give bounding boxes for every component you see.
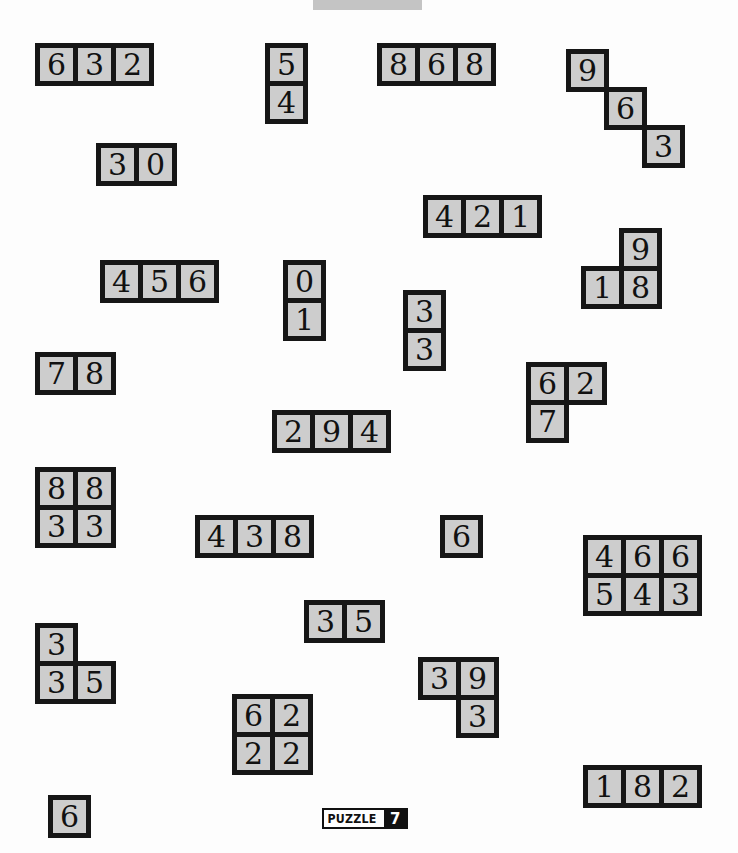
- piece-cell: 8: [271, 515, 314, 558]
- puzzle-label: PUZZLE 7: [322, 808, 408, 829]
- piece-cell: 3: [403, 290, 446, 333]
- piece-cell: 3: [304, 600, 347, 643]
- cell-digit: 6: [244, 701, 263, 731]
- cell-digit: 9: [468, 664, 487, 694]
- piece-cell: 4: [348, 410, 391, 453]
- piece-cell: 1: [499, 195, 542, 238]
- piece-cell: 7: [526, 400, 569, 443]
- cell-digit: 2: [473, 202, 492, 232]
- cell-digit: 6: [60, 802, 79, 832]
- cell-digit: 8: [633, 772, 652, 802]
- cell-digit: 6: [671, 542, 690, 572]
- piece-cell: 3: [659, 573, 702, 616]
- piece-cell: 3: [73, 505, 116, 548]
- cell-digit: 9: [578, 56, 597, 86]
- cell-digit: 5: [85, 668, 104, 698]
- piece-cell: 3: [35, 623, 78, 666]
- piece-cell: 6: [48, 795, 91, 838]
- cell-digit: 5: [150, 267, 169, 297]
- cell-digit: 3: [245, 522, 264, 552]
- piece-cell: 7: [35, 352, 78, 395]
- cell-digit: 8: [389, 50, 408, 80]
- piece-cell: 2: [659, 765, 702, 808]
- cell-digit: 3: [654, 132, 673, 162]
- piece-cell: 4: [265, 81, 308, 124]
- cell-digit: 1: [295, 305, 314, 335]
- piece-cell: 9: [456, 657, 499, 700]
- piece-cell: 5: [342, 600, 385, 643]
- cell-digit: 4: [207, 522, 226, 552]
- cell-digit: 9: [322, 417, 341, 447]
- cell-digit: 0: [295, 267, 314, 297]
- cell-digit: 4: [595, 542, 614, 572]
- piece-cell: 3: [73, 43, 116, 86]
- piece-cell: 8: [621, 765, 664, 808]
- puzzle-label-text: PUZZLE: [324, 810, 375, 827]
- piece-cell: 3: [233, 515, 276, 558]
- cell-digit: 3: [47, 668, 66, 698]
- piece-cell: 2: [270, 694, 313, 737]
- cell-digit: 8: [631, 273, 650, 303]
- cell-digit: 7: [47, 359, 66, 389]
- piece-cell: 4: [621, 573, 664, 616]
- cell-digit: 8: [85, 474, 104, 504]
- piece-cell: 1: [283, 298, 326, 341]
- piece-cell: 8: [453, 43, 496, 86]
- cell-digit: 2: [244, 739, 263, 769]
- piece-cell: 2: [564, 362, 607, 405]
- cell-digit: 2: [284, 417, 303, 447]
- cell-digit: 6: [47, 50, 66, 80]
- piece-cell: 6: [35, 43, 78, 86]
- piece-cell: 2: [270, 732, 313, 775]
- piece-cell: 5: [583, 573, 626, 616]
- cell-digit: 8: [283, 522, 302, 552]
- cell-digit: 6: [188, 267, 207, 297]
- piece-cell: 8: [377, 43, 420, 86]
- piece-cell: 6: [176, 260, 219, 303]
- cell-digit: 6: [452, 522, 471, 552]
- cell-digit: 2: [123, 50, 142, 80]
- cell-digit: 8: [47, 474, 66, 504]
- piece-cell: 0: [134, 143, 177, 186]
- cell-digit: 3: [316, 607, 335, 637]
- piece-cell: 5: [73, 661, 116, 704]
- cell-digit: 5: [595, 580, 614, 610]
- cell-digit: 2: [576, 369, 595, 399]
- piece-cell: 9: [566, 49, 609, 92]
- cell-digit: 3: [47, 512, 66, 542]
- piece-cell: 6: [526, 362, 569, 405]
- cell-digit: 5: [277, 50, 296, 80]
- puzzle-number: 7: [384, 810, 406, 827]
- piece-cell: 1: [581, 266, 624, 309]
- cell-digit: 3: [85, 50, 104, 80]
- piece-cell: 6: [621, 535, 664, 578]
- cell-digit: 4: [277, 88, 296, 118]
- piece-cell: 5: [138, 260, 181, 303]
- piece-cell: 2: [111, 43, 154, 86]
- cell-digit: 6: [633, 542, 652, 572]
- cell-digit: 8: [85, 359, 104, 389]
- piece-cell: 8: [35, 467, 78, 510]
- piece-cell: 3: [456, 695, 499, 738]
- cell-digit: 2: [671, 772, 690, 802]
- cell-digit: 2: [282, 739, 301, 769]
- piece-cell: 4: [100, 260, 143, 303]
- cell-digit: 3: [47, 630, 66, 660]
- piece-cell: 8: [73, 467, 116, 510]
- cell-digit: 3: [85, 512, 104, 542]
- cell-digit: 4: [360, 417, 379, 447]
- piece-cell: 6: [232, 694, 275, 737]
- piece-cell: 3: [96, 143, 139, 186]
- piece-cell: 6: [440, 515, 483, 558]
- cell-digit: 6: [427, 50, 446, 80]
- cell-digit: 2: [282, 701, 301, 731]
- top-tab-marker: [313, 0, 422, 10]
- cell-digit: 8: [465, 50, 484, 80]
- piece-cell: 6: [659, 535, 702, 578]
- cell-digit: 3: [415, 335, 434, 365]
- piece-cell: 4: [195, 515, 238, 558]
- cell-digit: 6: [538, 369, 557, 399]
- piece-cell: 3: [418, 657, 461, 700]
- piece-cell: 9: [310, 410, 353, 453]
- cell-digit: 1: [593, 273, 612, 303]
